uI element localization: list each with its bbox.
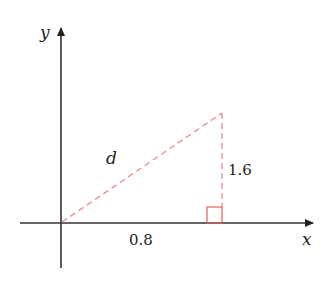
coordinate-diagram: y x d 1.6 0.8 [0, 0, 331, 284]
y-axis-label: y [39, 22, 50, 42]
right-angle-marker [207, 207, 222, 223]
x-axis-label: x [302, 229, 312, 249]
hypotenuse-dashed-line [62, 113, 222, 222]
vertical-leg-label: 1.6 [228, 161, 252, 179]
hypotenuse-label: d [106, 148, 117, 168]
horizontal-leg-label: 0.8 [129, 231, 153, 249]
